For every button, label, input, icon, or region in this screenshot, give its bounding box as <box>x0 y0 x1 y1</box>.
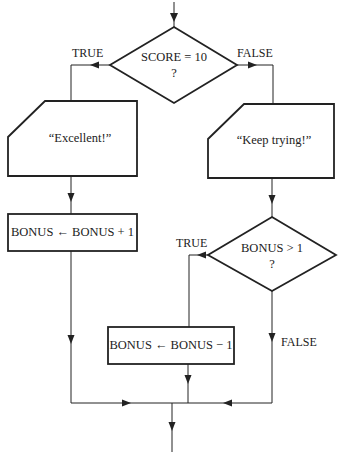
decision1-question-mark: ? <box>124 67 224 80</box>
arrowhead-icon <box>185 375 192 384</box>
arrowhead-icon <box>269 195 276 204</box>
arrowhead-icon <box>68 193 75 202</box>
process-decrement-text: BONUS ← BONUS − 1 <box>108 339 234 352</box>
decision2-true-connector <box>189 255 208 327</box>
decision1-false-connector <box>237 65 273 104</box>
decision1-condition-text: SCORE = 10 <box>124 51 224 64</box>
output-keep-trying-text: “Keep trying!” <box>214 134 334 147</box>
arrowhead-icon <box>169 422 176 431</box>
process-increment-text: BONUS ← BONUS + 1 <box>8 226 137 239</box>
arrowhead-icon <box>90 62 99 69</box>
flowchart: TRUE FALSE TRUE FALSE SCORE = 10 ? “Exce… <box>0 0 344 455</box>
arrowhead-icon <box>68 335 75 344</box>
arrowhead-icon <box>170 13 178 22</box>
arrowhead-icon <box>197 252 206 259</box>
decision1-true-label: TRUE <box>72 47 103 59</box>
arrowhead-icon <box>269 333 276 342</box>
output-excellent-text: “Excellent!” <box>20 132 140 145</box>
decision2-question-mark: ? <box>222 258 322 271</box>
decision-score-diamond <box>110 27 237 103</box>
decision2-true-label: TRUE <box>176 237 207 249</box>
decision1-false-label: FALSE <box>237 47 273 59</box>
decision2-condition-text: BONUS > 1 <box>222 242 322 255</box>
arrowhead-icon <box>248 62 257 69</box>
decision1-true-connector <box>71 65 110 101</box>
decision2-false-label: FALSE <box>281 336 317 348</box>
